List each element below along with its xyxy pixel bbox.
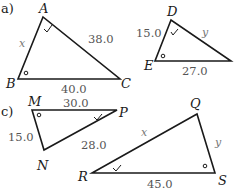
side-df-label: y <box>201 26 209 39</box>
vertex-label-c: C <box>121 76 131 91</box>
side-mp-label: 30.0 <box>63 96 89 110</box>
vertex-label-m: M <box>27 94 42 109</box>
triangle-mnp: M N P 15.0 30.0 28.0 <box>8 94 128 173</box>
vertex-label-e: E <box>143 58 154 73</box>
vertex-label-b: B <box>5 76 16 91</box>
vertex-label-a: A <box>38 1 48 16</box>
vertex-label-n: N <box>36 158 49 173</box>
side-rs-label: 45.0 <box>147 177 173 189</box>
triangle-abc-shape <box>18 17 120 79</box>
vertex-label-s: S <box>218 173 227 188</box>
part-label-a: a) <box>1 1 14 16</box>
side-bc-label: 40.0 <box>61 82 87 96</box>
angle-r-check-icon <box>113 165 121 171</box>
triangle-abc: A B C x 38.0 40.0 <box>5 1 131 96</box>
side-mn-label: 15.0 <box>8 130 34 144</box>
side-qs-label: y <box>214 136 222 149</box>
triangle-def: D E 15.0 y 27.0 <box>136 4 231 78</box>
angle-d-check-icon <box>171 29 178 35</box>
part-label-c: c) <box>1 104 13 119</box>
side-ef-label: 27.0 <box>182 64 208 78</box>
side-de-label: 15.0 <box>136 26 162 40</box>
triangle-qrs-shape <box>92 114 215 173</box>
angle-m-circle-icon <box>37 113 41 117</box>
triangle-def-shape <box>155 20 231 61</box>
similar-triangles-diagram: a) c) A B C x 38.0 40.0 D E 15.0 y 27.0 … <box>0 0 235 189</box>
side-ab-label: x <box>19 37 26 50</box>
vertex-label-p: P <box>118 105 128 120</box>
side-ac-label: 38.0 <box>88 32 114 46</box>
vertex-label-d: D <box>166 4 178 19</box>
angle-b-circle-icon <box>24 71 28 75</box>
side-np-label: 28.0 <box>81 138 107 152</box>
angle-a-check-icon <box>44 25 52 32</box>
angle-e-circle-icon <box>161 54 165 58</box>
angle-s-circle-icon <box>203 164 207 168</box>
vertex-label-r: R <box>77 169 88 184</box>
side-qr-label: x <box>141 126 148 139</box>
vertex-label-q: Q <box>190 96 201 111</box>
